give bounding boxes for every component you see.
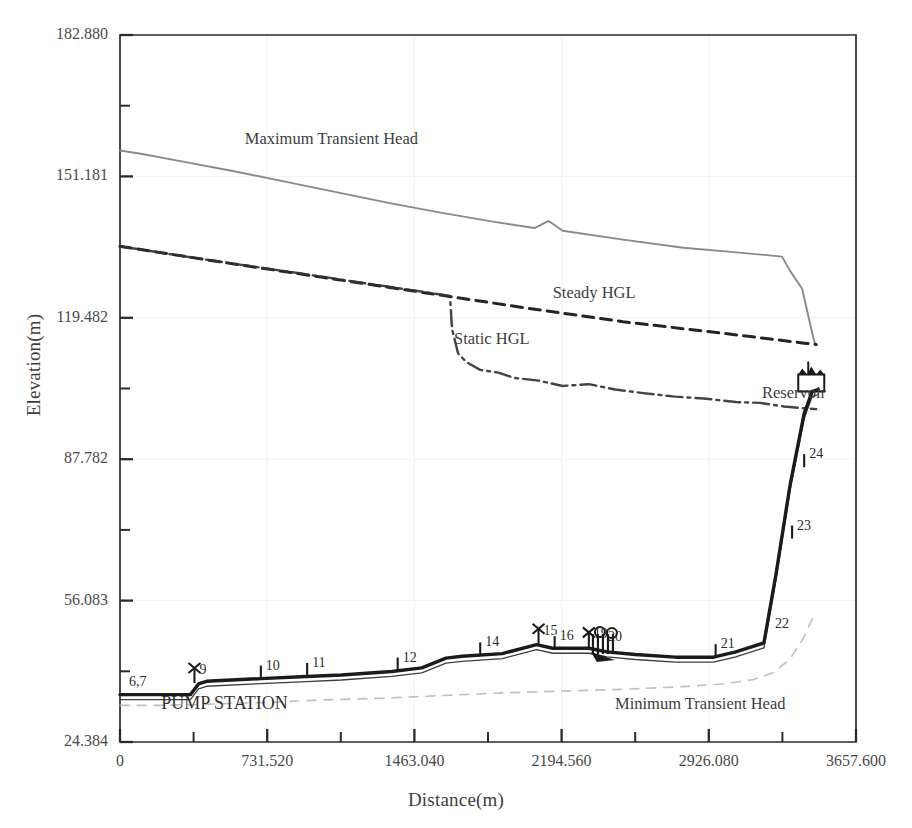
pipeline-node-24: 24 [804, 446, 823, 467]
node-label: 20 [608, 629, 622, 644]
annotation-minimum-transient-head: Minimum Transient Head [615, 694, 786, 713]
data-series-layer [120, 150, 818, 705]
series-static-hgl [120, 246, 816, 409]
node-label: 22 [775, 616, 789, 631]
node-label: 15 [544, 623, 558, 638]
node-label: 24 [809, 446, 823, 461]
pipeline-node-10: 10 [261, 658, 280, 679]
pipeline-node-22: 22 [775, 616, 789, 631]
node-label: 11 [312, 655, 325, 670]
node-label: 6,7 [129, 674, 147, 689]
pipeline-node-14: 14 [480, 634, 499, 655]
node-label: 23 [797, 518, 811, 533]
annotation-static-hgl: Static HGL [454, 329, 530, 348]
annotation-reservoir: Reservoir [762, 383, 827, 402]
annotation-pump-station: PUMP STATION [161, 693, 287, 713]
series-maximum-transient-head [120, 150, 815, 344]
node-label: 10 [266, 658, 280, 673]
pipeline-node-9: 9 [188, 662, 206, 683]
pipeline-node-11: 11 [307, 655, 325, 676]
pipeline-node-23: 23 [792, 518, 811, 539]
annotations-layer: Maximum Transient HeadSteady HGLStatic H… [161, 129, 826, 713]
node-label: 14 [485, 634, 499, 649]
pipeline-nodes-layer: 6,79101112141516192021222324 [129, 362, 824, 689]
chart-plot-area: 6,79101112141516192021222324 Maximum Tra… [0, 0, 912, 828]
annotation-max-transient-head: Maximum Transient Head [245, 129, 419, 148]
series-pipeline-profile [120, 390, 818, 700]
annotation-steady-hgl: Steady HGL [553, 283, 636, 302]
node-label: 21 [721, 636, 735, 651]
node-label: 16 [560, 628, 574, 643]
chart-root: Elevation(m) Distance(m) 182.880151.1811… [0, 0, 912, 828]
node-label: 12 [403, 650, 417, 665]
node-label: 9 [199, 662, 206, 677]
pipeline-node-6-7: 6,7 [129, 674, 147, 689]
